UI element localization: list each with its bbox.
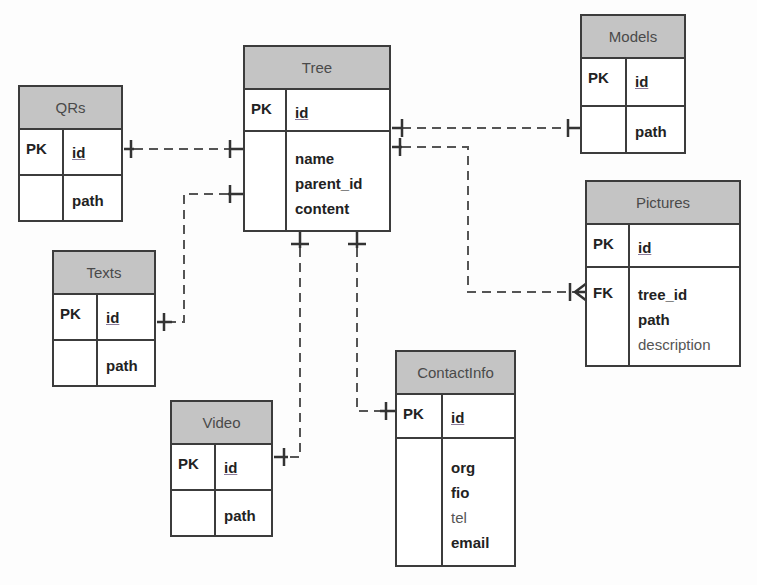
pk-field: id [295,100,308,125]
pk-label: PK [397,395,443,437]
entity-contactinfo[interactable]: ContactInfo PK id org fio tel email [395,350,516,567]
entity-title: Video [172,402,271,445]
tick-icon [348,232,366,248]
pk-label: PK [245,90,287,130]
entity-title: Tree [245,47,389,90]
pk-field: id [638,235,651,260]
entity-title: Pictures [587,182,739,225]
pk-field: id [106,305,119,330]
pk-label: PK [582,59,627,105]
key-cell [245,132,287,230]
field: email [451,530,489,555]
key-cell [397,439,443,565]
pk-field: id [72,140,85,165]
tick-icon [392,138,402,156]
tick-icon [124,140,134,158]
entity-video[interactable]: Video PK id path [170,400,273,537]
fk-label: FK [587,268,630,365]
line-tree-pictures [402,147,575,292]
field: tree_id [638,282,711,307]
field: fio [451,480,489,505]
pk-label: PK [54,295,98,339]
field: path [635,119,667,144]
entity-title: Texts [54,252,154,295]
key-cell [172,491,216,535]
key-cell [20,176,64,220]
field: tel [451,505,489,530]
entity-title: ContactInfo [397,352,514,395]
field: path [224,503,256,528]
key-cell [54,341,98,385]
pk-label: PK [587,225,630,266]
entity-title: Models [582,16,684,59]
tick-icon [291,232,309,248]
line-tree-video [285,248,300,457]
line-tree-contactinfo [357,248,380,411]
field: path [106,353,138,378]
entity-qrs[interactable]: QRs PK id path [18,85,123,222]
pk-field: id [224,455,237,480]
field: path [638,307,711,332]
tick-icon [228,185,243,203]
pk-label: PK [172,445,216,489]
field: path [72,188,104,213]
field: content [295,196,363,221]
tick-icon [157,313,172,331]
entity-pictures[interactable]: Pictures PK id FK tree_id path descripti… [585,180,741,367]
pk-field: id [451,405,464,430]
entity-models[interactable]: Models PK id path [580,14,686,154]
field: description [638,332,711,357]
tick-icon [568,119,580,137]
tick-icon [230,140,243,158]
field: org [451,455,489,480]
key-cell [582,107,627,152]
tick-icon [392,119,402,137]
line-tree-texts [168,194,228,322]
entity-texts[interactable]: Texts PK id path [52,250,156,387]
field: name [295,146,363,171]
pk-label: PK [20,130,64,174]
pk-field: id [635,69,648,94]
entity-title: QRs [20,87,121,130]
field: parent_id [295,171,363,196]
tick-icon [274,448,288,466]
entity-tree[interactable]: Tree PK id name parent_id content [243,45,391,232]
